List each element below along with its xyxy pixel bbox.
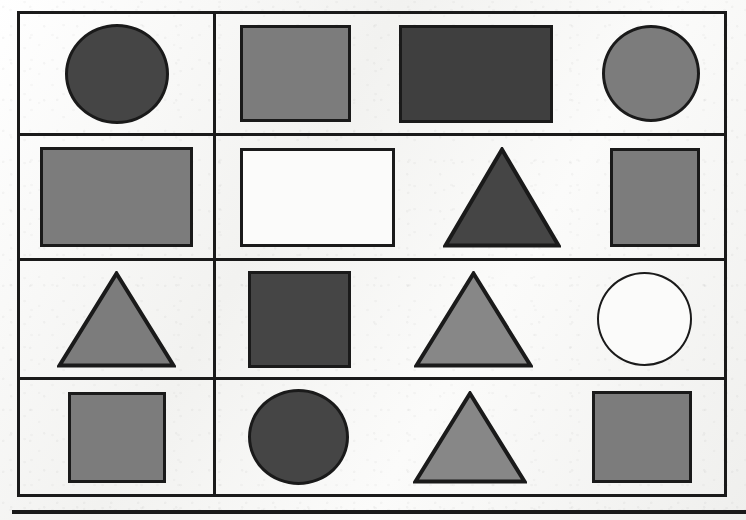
- table-cell-right: [216, 14, 724, 133]
- gray-square-shape: [592, 391, 692, 483]
- gray-square-shape: [610, 148, 700, 247]
- table-row: [20, 14, 724, 136]
- table-row: [20, 261, 724, 380]
- table-cell-right: [216, 261, 724, 377]
- dark-gray-square-shape: [248, 271, 351, 368]
- table-row: [20, 136, 724, 261]
- white-circle-shape: [597, 272, 692, 366]
- horizontal-rule: [12, 510, 746, 514]
- table-cell-left: [20, 261, 216, 377]
- table-cell-left: [20, 14, 216, 133]
- gray-square-shape: [68, 392, 166, 483]
- white-rectangle-shape: [240, 148, 395, 247]
- dark-gray-circle-shape: [248, 389, 349, 485]
- shape-grid-table: [17, 11, 727, 497]
- table-cell-right: [216, 380, 724, 494]
- gray-square-shape: [240, 25, 351, 122]
- table-cell-right: [216, 136, 724, 258]
- table-cell-left: [20, 136, 216, 258]
- dark-gray-triangle-shape: [443, 147, 561, 248]
- gray-triangle-shape: [57, 271, 176, 368]
- scanned-worksheet-page: [0, 0, 746, 520]
- gray-circle-shape: [602, 25, 700, 122]
- table-cell-left: [20, 380, 216, 494]
- gray-triangle-shape: [413, 391, 527, 484]
- gray-triangle-shape: [414, 271, 533, 368]
- dark-gray-rectangle-shape: [399, 25, 553, 123]
- gray-rectangle-shape: [40, 147, 193, 247]
- dark-gray-circle-shape: [65, 24, 169, 124]
- table-row: [20, 380, 724, 494]
